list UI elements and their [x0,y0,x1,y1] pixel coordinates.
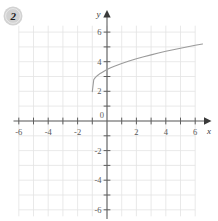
x-tick-label-2: 2 [134,127,138,137]
y-axis-arrowhead [103,10,110,18]
x-axis-arrowhead [204,117,212,124]
origin-label: 0 [100,110,104,120]
y-tick-label-2: 2 [97,86,101,96]
x-tick-label-neg4: -4 [45,127,53,137]
graph-figure: -6 -4 -2 2 4 6 6 4 2 -2 -4 -6 0 x y 2 [0,0,218,221]
function-curve [92,44,202,92]
x-tick-label-neg2: -2 [74,127,81,137]
question-number-badge: 2 [4,7,23,26]
y-tick-label-neg6: -6 [94,205,101,215]
x-tick-label-6: 6 [193,127,197,137]
x-tick-label-4: 4 [164,127,169,137]
x-tick-label-neg6: -6 [15,127,22,137]
y-tick-label-6: 6 [97,27,101,37]
y-axis-label: y [96,9,101,19]
x-axis-label: x [206,126,211,136]
y-tick-label-neg4: -4 [94,175,102,185]
coordinate-plane: -6 -4 -2 2 4 6 6 4 2 -2 -4 -6 0 x y 2 [0,0,218,221]
y-tick-label-neg2: -2 [94,146,101,156]
badge-label: 2 [9,10,16,22]
